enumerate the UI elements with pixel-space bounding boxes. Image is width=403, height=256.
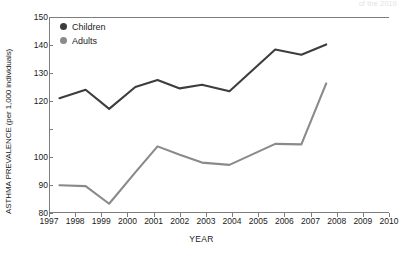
- x-axis-title: YEAR: [0, 234, 403, 244]
- legend-item-label: Adults: [72, 36, 97, 46]
- legend-item-label: Children: [72, 22, 106, 32]
- legend-item-adults: Adults: [60, 34, 106, 47]
- chart-legend: ChildrenAdults: [60, 20, 106, 48]
- legend-item-children: Children: [60, 20, 106, 33]
- x-tick-label: 2010: [369, 216, 403, 226]
- legend-marker-icon: [60, 37, 67, 44]
- series-line-children: [59, 44, 326, 108]
- asthma-prevalence-line-chart: of the 2010 ASTHMA PREVALENCE (per 1,000…: [0, 0, 403, 256]
- legend-marker-icon: [60, 23, 67, 30]
